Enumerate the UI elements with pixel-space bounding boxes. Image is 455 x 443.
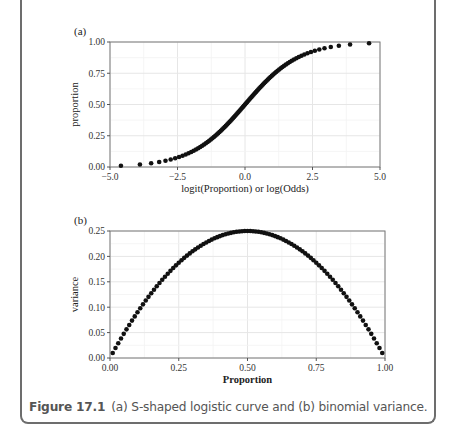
x-tick-label: 2.5 [307,172,319,182]
x-tick-label: −2.5 [169,172,186,182]
x-tick-label: 0.25 [170,363,187,373]
panel-a-logistic-curve: (a)−5.0−2.50.02.55.00.000.250.500.751.00… [69,25,386,195]
x-axis: 0.000.250.500.751.00 [102,358,394,373]
panel-b-binomial-variance: (b)0.000.250.500.751.000.000.050.100.150… [69,214,394,385]
x-tick-label: 0.50 [239,363,256,373]
x-tick-label: 0.75 [308,363,325,373]
x-axis-title: Proportion [223,374,273,385]
figure-caption: Figure 17.1(a) S-shaped logistic curve a… [29,400,428,414]
y-tick-label: 0.25 [88,131,105,141]
x-tick-label: −5.0 [101,172,118,182]
y-tick-label: 0.10 [88,303,105,313]
figure-caption-text: (a) S-shaped logistic curve and (b) bino… [111,400,427,414]
y-tick-label: 0.20 [88,252,105,262]
y-axis-title: proportion [69,82,80,127]
y-axis: 0.000.050.100.150.200.25 [88,226,110,363]
panel-label: (a) [74,25,87,38]
y-tick-label: 0.75 [88,69,105,79]
figure-svg: (a)−5.0−2.50.02.55.00.000.250.500.751.00… [0,0,455,443]
x-axis: −5.0−2.50.02.55.0 [101,167,386,182]
x-tick-label: 0.00 [102,363,119,373]
y-axis-title: variance [69,276,80,312]
x-tick-label: 5.0 [374,172,386,182]
y-tick-label: 0.00 [88,162,105,172]
y-tick-label: 0.50 [88,100,105,110]
y-tick-label: 0.25 [88,226,105,236]
y-tick-label: 0.05 [88,328,105,338]
y-axis: 0.000.250.500.751.00 [88,37,110,172]
x-tick-label: 0.0 [239,172,251,182]
panel-label: (b) [74,214,87,227]
x-axis-title: logit(Proportion) or log(Odds) [181,183,309,195]
x-tick-label: 1.00 [377,363,394,373]
figure-label: Figure 17.1 [29,400,105,414]
y-tick-label: 0.15 [88,277,105,287]
y-tick-label: 1.00 [88,37,105,47]
y-tick-label: 0.00 [88,353,105,363]
